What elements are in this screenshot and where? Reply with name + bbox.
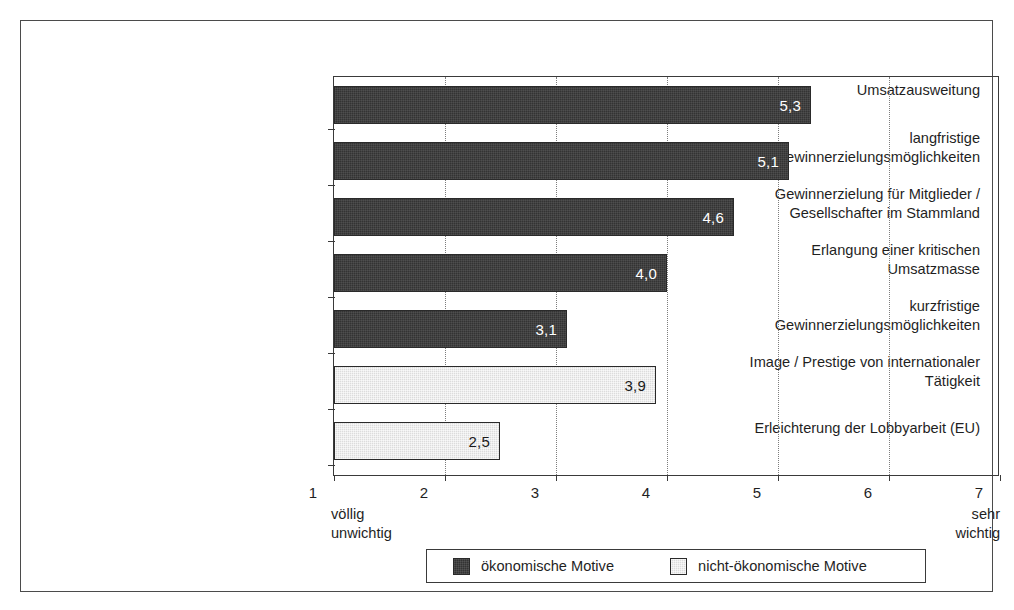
legend-item-label: nicht-ökonomische Motive [698, 558, 867, 574]
legend-item-oekonomische-motive[interactable]: ökonomische Motive [453, 558, 614, 575]
ytick-separator [328, 241, 335, 242]
bar-lobbyarbeit[interactable]: 2,5 [334, 422, 500, 460]
chart-outer-frame: Umsatzausweitung langfristige Gewinnerzi… [20, 20, 993, 592]
bar-value-label: 3,9 [625, 377, 655, 394]
ytick-separator [328, 129, 335, 130]
gridline-6 [889, 77, 890, 475]
xtick-1 [334, 475, 335, 481]
xtick-6 [889, 475, 890, 481]
plot-area: 5,3 5,1 4,6 4,0 3,1 3,9 [333, 76, 999, 476]
xtick-3 [556, 475, 557, 481]
bar-kritische-umsatzmasse[interactable]: 4,0 [334, 254, 667, 292]
xtick-label-6: 6 [864, 484, 872, 501]
scale-anchor-high: sehr wichtig [955, 505, 1000, 543]
ytick-separator [328, 297, 335, 298]
ytick-separator [328, 353, 335, 354]
bar-kurzfristige-gewinnerzielung[interactable]: 3,1 [334, 310, 567, 348]
bar-value-label: 4,0 [636, 265, 666, 282]
xtick-label-3: 3 [531, 484, 539, 501]
bar-gewinnerzielung-mitglieder[interactable]: 4,6 [334, 198, 734, 236]
xtick-label-1: 1 [309, 484, 317, 501]
bar-value-label: 5,1 [758, 153, 788, 170]
bar-image-prestige[interactable]: 3,9 [334, 366, 656, 404]
xtick-label-4: 4 [642, 484, 650, 501]
ytick-separator [328, 465, 335, 466]
legend-item-nicht-oekonomische-motive[interactable]: nicht-ökonomische Motive [670, 558, 867, 575]
gridline-5 [778, 77, 779, 475]
xtick-label-7: 7 [975, 484, 983, 501]
legend-swatch-icon [453, 558, 470, 575]
ytick-separator [328, 409, 335, 410]
bar-value-label: 4,6 [703, 209, 733, 226]
xtick-label-5: 5 [753, 484, 761, 501]
gridline-4 [667, 77, 668, 475]
bar-value-label: 3,1 [536, 321, 566, 338]
xtick-2 [445, 475, 446, 481]
ytick-separator [328, 185, 335, 186]
xtick-7 [1000, 475, 1001, 481]
bar-umsatzausweitung[interactable]: 5,3 [334, 86, 811, 124]
bar-value-label: 5,3 [780, 97, 810, 114]
bar-value-label: 2,5 [469, 433, 499, 450]
legend-item-label: ökonomische Motive [481, 558, 614, 574]
xtick-5 [778, 475, 779, 481]
chart-legend: ökonomische Motive nicht-ökonomische Mot… [426, 549, 926, 583]
xtick-label-2: 2 [420, 484, 428, 501]
xtick-4 [667, 475, 668, 481]
legend-swatch-icon [670, 558, 687, 575]
scale-anchor-low: völlig unwichtig [331, 505, 392, 543]
bar-langfristige-gewinnerzielung[interactable]: 5,1 [334, 142, 789, 180]
